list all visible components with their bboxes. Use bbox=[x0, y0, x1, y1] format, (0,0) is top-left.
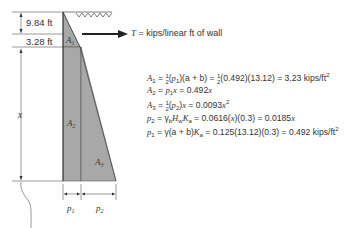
force-arrow-icon bbox=[82, 30, 128, 38]
area-a2 bbox=[63, 47, 81, 181]
p2-label: p2 bbox=[96, 203, 104, 214]
dimension-second-label: 3.28 ft bbox=[26, 36, 52, 47]
equation-a3: A3 = 12(p2)x = 0.0093x2 bbox=[147, 99, 229, 112]
force-label: T = kips/linear ft of wall bbox=[131, 28, 222, 38]
pressure-width-dimensions bbox=[63, 184, 116, 200]
area-a1-label: A1 bbox=[66, 35, 75, 46]
area-a2-label: A2 bbox=[67, 118, 76, 129]
equation-a2: A2 = p1x = 0.492x bbox=[147, 85, 212, 96]
p1-label: p1 bbox=[67, 203, 75, 214]
ground-hatch-icon bbox=[63, 12, 112, 17]
equation-p2: p2 = γbHwKa = 0.0616(x)(0.3) = 0.0185x bbox=[147, 113, 295, 124]
equation-p1: p1 = γ(a + b)Ka = 0.125(13.12)(0.3) = 0.… bbox=[147, 126, 339, 138]
area-a3-label: A3 bbox=[95, 157, 104, 168]
depth-x-label: x bbox=[18, 110, 22, 120]
dimension-top-label: 9.84 ft bbox=[26, 17, 52, 28]
equation-a1: A1 = 12(p1)(a + b) = 12(0.492)(13.12) = … bbox=[147, 72, 329, 85]
